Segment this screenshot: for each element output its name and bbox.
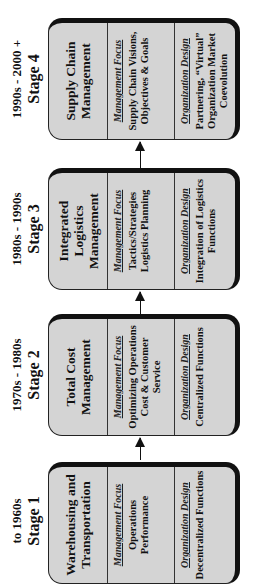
stage-1-title: Warehousing and Transportation	[49, 467, 108, 583]
stage-4-design-text: Partnering, “Virtual” Organization Marke…	[194, 26, 230, 136]
stage-2-box: Total Cost Management Management Focus O…	[48, 314, 240, 436]
arrow-1-to-2-icon	[140, 438, 141, 460]
stage-1-era: to 1960s	[8, 456, 25, 586]
stage-3-design: Organization Design Integration of Logis…	[174, 173, 240, 289]
stage-4-box: Supply Chain Management Management Focus…	[48, 18, 240, 140]
stage-3-focus: Management Focus Tactics/Strategies Logi…	[108, 173, 174, 289]
stage-3-title: Integrated Logistics Management	[49, 173, 108, 289]
stage-3-era: 1980s - 1990s	[8, 164, 25, 294]
stage-1-box: Warehousing and Transportation Managemen…	[48, 462, 240, 584]
stage-4-era: 1990s - 2000 +	[8, 14, 25, 144]
stage-4-design-label: Organization Design	[179, 26, 190, 136]
arrow-3-to-4-icon	[140, 142, 141, 168]
stage-2-focus: Management Focus Optimizing Operations C…	[108, 319, 174, 435]
stage-4-title: Supply Chain Management	[49, 23, 108, 139]
stage-2-design-text: Centralized Functions	[194, 322, 206, 432]
stage-3-box: Integrated Logistics Management Manageme…	[48, 168, 240, 290]
stage-2-focus-text: Optimizing Operations Cost & Customer Se…	[127, 322, 163, 432]
stage-2-design: Organization Design Centralized Function…	[174, 319, 240, 435]
stage-3-focus-label: Management Focus	[112, 176, 123, 286]
stage-3-design-label: Organization Design	[179, 176, 190, 286]
stage-3-design-text: Integration of Logistics Functions	[194, 176, 218, 286]
stage-3-focus-text: Tactics/Strategies Logistics Planning	[127, 176, 151, 286]
stage-2-design-label: Organization Design	[179, 322, 190, 432]
stage-2-label: Stage 2	[25, 310, 42, 440]
stage-1-header: to 1960s Stage 1	[8, 456, 42, 586]
stage-1-focus: Management Focus Operations Performance	[108, 467, 174, 583]
stage-2-era: 1970s - 1980s	[8, 310, 25, 440]
evolution-diagram: to 1960s Stage 1 Warehousing and Transpo…	[0, 0, 266, 586]
stage-1-design-label: Organization Design	[179, 470, 190, 580]
stage-4-header: 1990s - 2000 + Stage 4	[8, 14, 42, 144]
stage-1-focus-text: Operations Performance	[127, 470, 151, 580]
stage-4-design: Organization Design Partnering, “Virtual…	[174, 23, 240, 139]
stage-4-focus-text: Supply Chain Visions, Objectives & Goals	[127, 26, 151, 136]
stage-3-label: Stage 3	[25, 164, 42, 294]
stage-1-focus-label: Management Focus	[112, 470, 123, 580]
stage-1-label: Stage 1	[25, 456, 42, 586]
stage-2-title: Total Cost Management	[49, 319, 108, 435]
stage-1-design: Organization Design Decentralized Functi…	[174, 467, 240, 583]
stage-4-label: Stage 4	[25, 14, 42, 144]
arrow-2-to-3-icon	[140, 292, 141, 314]
stage-4-focus-label: Management Focus	[112, 26, 123, 136]
stage-1-design-text: Decentralized Functions	[194, 470, 206, 580]
stage-4-focus: Management Focus Supply Chain Visions, O…	[108, 23, 174, 139]
stage-2-focus-label: Management Focus	[112, 322, 123, 432]
stage-3-header: 1980s - 1990s Stage 3	[8, 164, 42, 294]
stage-2-header: 1970s - 1980s Stage 2	[8, 310, 42, 440]
